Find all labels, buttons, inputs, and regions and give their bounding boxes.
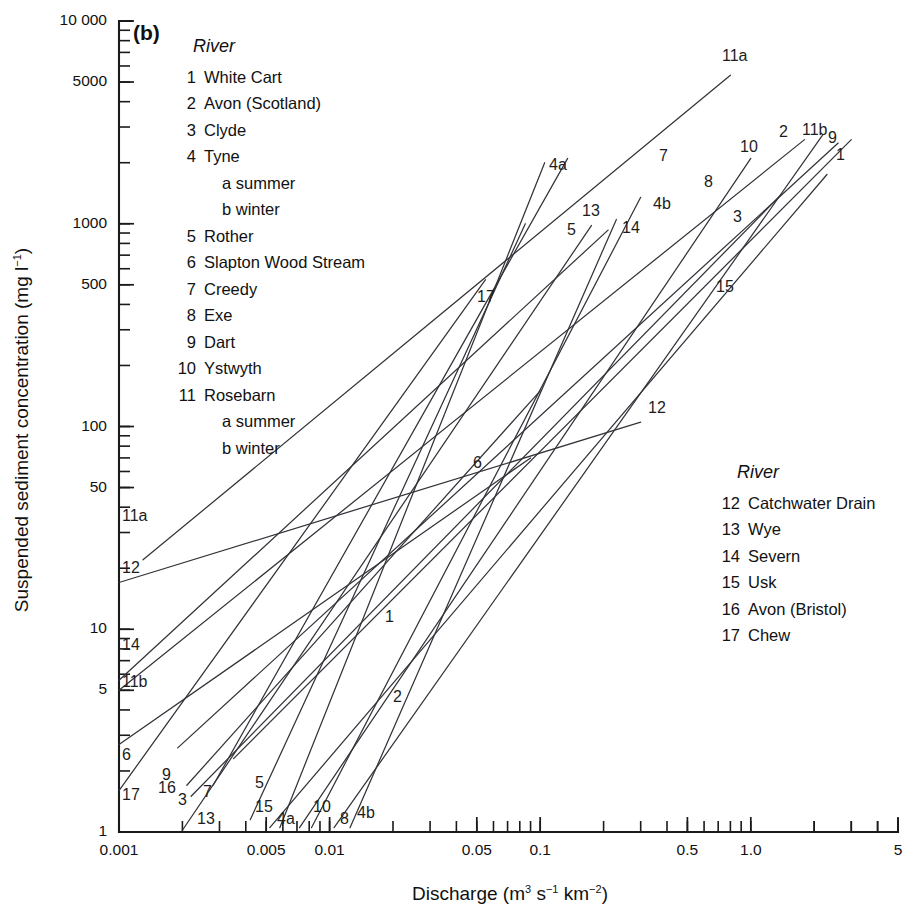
curve-label-2: 2 bbox=[779, 123, 788, 140]
curve-label-5: 5 bbox=[255, 774, 264, 791]
curve-label-9: 9 bbox=[828, 129, 837, 146]
x-tick-label: 0.1 bbox=[529, 841, 551, 858]
figure-panel-b: 1510501005001000500010 0000.0010.0050.01… bbox=[0, 0, 920, 915]
y-axis-title-sup: −1 bbox=[11, 254, 23, 267]
x-tick-label: 0.5 bbox=[677, 841, 699, 858]
curve-label-12: 12 bbox=[122, 559, 140, 576]
curve-label-12: 12 bbox=[648, 399, 666, 416]
x-tick-label: 0.005 bbox=[247, 841, 286, 858]
x-axis-title-main: Discharge (m bbox=[412, 883, 525, 904]
legend-river-name: Severn bbox=[748, 547, 800, 565]
curve-label-4a: 4a bbox=[277, 810, 295, 827]
y-axis-title-tail: ) bbox=[11, 248, 32, 254]
curve-label-7: 7 bbox=[203, 783, 212, 800]
legend-number: 2 bbox=[187, 94, 196, 112]
x-axis-title-mid: s bbox=[531, 883, 546, 904]
legend-number: 3 bbox=[187, 121, 196, 139]
legend-river-name: Exe bbox=[204, 306, 232, 324]
y-axis-title-main: Suspended sediment concentration (mg l bbox=[11, 267, 32, 612]
legend-river-name: Rother bbox=[204, 227, 254, 245]
curve-label-4b: 4b bbox=[653, 195, 671, 212]
x-axis-title-sup3: −2 bbox=[589, 883, 602, 895]
legend-river-name: Rosebarn bbox=[204, 386, 276, 404]
curve-label-6: 6 bbox=[122, 746, 131, 763]
curve-label-8: 8 bbox=[340, 810, 349, 827]
x-axis-title-tail: ) bbox=[602, 883, 608, 904]
curve-label-11a: 11a bbox=[122, 507, 148, 524]
y-tick-label: 5 bbox=[98, 680, 107, 697]
legend-number: 1 bbox=[187, 68, 196, 86]
curve-label-17: 17 bbox=[477, 288, 495, 305]
svg-text:Suspended sediment concentrati: Suspended sediment concentration (mg l−1… bbox=[11, 248, 32, 612]
svg-text:Discharge (m3 s−1 km−2): Discharge (m3 s−1 km−2) bbox=[412, 883, 608, 904]
legend-river-name: Slapton Wood Stream bbox=[204, 253, 365, 271]
legend-river-name: Wye bbox=[748, 520, 781, 538]
curve-label-10: 10 bbox=[313, 798, 331, 815]
curve-label-17: 17 bbox=[122, 786, 140, 803]
legend-number: 17 bbox=[722, 626, 740, 644]
y-tick-label: 5000 bbox=[73, 72, 108, 89]
x-tick-label: 0.01 bbox=[315, 841, 345, 858]
curve-label-15: 15 bbox=[716, 278, 734, 295]
curve-label-2: 2 bbox=[393, 688, 402, 705]
curve-label-16: 16 bbox=[158, 779, 176, 796]
x-tick-label: 0.05 bbox=[462, 841, 492, 858]
legend-river-name: Creedy bbox=[204, 280, 258, 298]
legend-sub-entry: b winter bbox=[222, 200, 280, 218]
legend-number: 9 bbox=[187, 333, 196, 351]
legend-number: 13 bbox=[722, 520, 740, 538]
legend-number: 15 bbox=[722, 573, 740, 591]
curve-label-14: 14 bbox=[622, 219, 640, 236]
curve-label-6: 6 bbox=[473, 454, 482, 471]
legend-river-name: Avon (Bristol) bbox=[748, 600, 847, 618]
y-axis-title: Suspended sediment concentration (mg l−1… bbox=[11, 248, 32, 612]
curve-label-4a: 4a bbox=[549, 156, 567, 173]
legend-river-name: White Cart bbox=[204, 68, 282, 86]
curve-label-11b: 11b bbox=[122, 673, 148, 690]
curve-label-13: 13 bbox=[197, 810, 215, 827]
legend-number: 8 bbox=[187, 306, 196, 324]
curve-label-7: 7 bbox=[659, 147, 668, 164]
curve-label-15: 15 bbox=[255, 798, 273, 815]
x-tick-label: 1.0 bbox=[740, 841, 762, 858]
legend-sub-entry: a summer bbox=[222, 412, 296, 430]
legend-number: 4 bbox=[187, 147, 196, 165]
curve-label-5: 5 bbox=[567, 221, 576, 238]
legend-number: 11 bbox=[179, 386, 196, 404]
legend-sub-entry: a summer bbox=[222, 174, 296, 192]
legend-heading: River bbox=[737, 462, 780, 482]
legend-river-name: Usk bbox=[748, 573, 777, 591]
y-tick-label: 10 bbox=[90, 619, 108, 636]
legend-river-name: Avon (Scotland) bbox=[204, 94, 321, 112]
panel-label: (b) bbox=[133, 21, 160, 44]
curve-label-4b: 4b bbox=[357, 804, 375, 821]
legend-river-name: Ystwyth bbox=[204, 359, 262, 377]
curve-label-3: 3 bbox=[733, 208, 742, 225]
legend-river-name: Clyde bbox=[204, 121, 246, 139]
x-axis-title-sup2: −1 bbox=[546, 883, 559, 895]
legend-river-name: Catchwater Drain bbox=[748, 494, 875, 512]
curve-label-1: 1 bbox=[385, 608, 394, 625]
legend-number: 6 bbox=[187, 253, 196, 271]
curve-label-10: 10 bbox=[740, 138, 758, 155]
legend-number: 7 bbox=[187, 280, 196, 298]
x-tick-label: 0.001 bbox=[100, 841, 139, 858]
y-tick-label: 100 bbox=[81, 417, 107, 434]
y-tick-label: 50 bbox=[90, 478, 108, 495]
y-tick-label: 1000 bbox=[73, 214, 108, 231]
x-axis-title-mid2: km bbox=[558, 883, 589, 904]
legend-number: 5 bbox=[187, 227, 196, 245]
sediment-rating-curve-chart: 1510501005001000500010 0000.0010.0050.01… bbox=[0, 0, 920, 915]
legend-sub-entry: b winter bbox=[222, 439, 280, 457]
curve-label-11b: 11b bbox=[802, 121, 828, 138]
legend-number: 16 bbox=[722, 600, 740, 618]
legend-river-name: Chew bbox=[748, 626, 790, 644]
curve-label-1: 1 bbox=[836, 146, 845, 163]
y-tick-label: 500 bbox=[81, 275, 107, 292]
y-tick-label: 10 000 bbox=[60, 11, 108, 28]
curve-label-11a: 11a bbox=[722, 47, 748, 64]
curve-label-14: 14 bbox=[122, 636, 140, 653]
x-tick-label: 5 bbox=[894, 841, 903, 858]
legend-heading: River bbox=[193, 36, 236, 56]
curve-label-8: 8 bbox=[704, 173, 713, 190]
